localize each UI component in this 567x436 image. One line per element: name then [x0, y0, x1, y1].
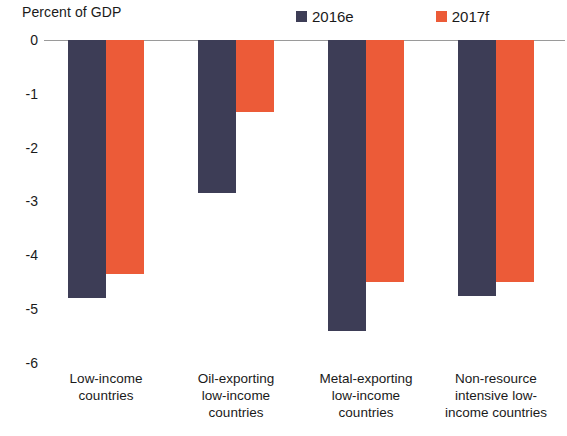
x-axis-category-label: Low-incomecountries — [38, 370, 174, 404]
x-axis-category-label-line: countries — [298, 404, 434, 421]
x-axis-category-label: Non-resourceintensive low-income countri… — [428, 370, 564, 421]
y-axis-tick-label: -2 — [0, 141, 38, 155]
x-axis-category-label-line: low-income — [168, 387, 304, 404]
bar-chart: Percent of GDP 2016e 2017f 0-1-2-3-4-5-6… — [0, 0, 567, 436]
y-axis-tick-label: -3 — [0, 194, 38, 208]
bar-2016e-group3 — [458, 40, 496, 296]
x-axis-category-label-line: countries — [38, 387, 174, 404]
y-axis-tick-label: -4 — [0, 248, 38, 262]
y-axis-tick-label: -1 — [0, 87, 38, 101]
bar-2016e-group1 — [198, 40, 236, 193]
x-axis-category-label-line: intensive low- — [428, 387, 564, 404]
plot-area: 0-1-2-3-4-5-6Low-incomecountriesOil-expo… — [0, 0, 567, 436]
x-axis-category-label-line: income countries — [428, 404, 564, 421]
y-axis-tick-label: 0 — [0, 33, 38, 47]
x-axis-category-label-line: low-income — [298, 387, 434, 404]
x-axis-category-label-line: Metal-exporting — [298, 370, 434, 387]
bar-2016e-group0 — [68, 40, 106, 298]
y-axis-tick-label: -5 — [0, 302, 38, 316]
bar-2017f-group1 — [236, 40, 274, 112]
bar-2017f-group3 — [496, 40, 534, 282]
x-axis-category-label-line: countries — [168, 404, 304, 421]
bar-2017f-group2 — [366, 40, 404, 282]
y-axis-tick-label: -6 — [0, 356, 38, 370]
x-axis-category-label: Metal-exportinglow-incomecountries — [298, 370, 434, 421]
x-axis-category-label-line: Low-income — [38, 370, 174, 387]
x-axis-category-label: Oil-exportinglow-incomecountries — [168, 370, 304, 421]
bar-2016e-group2 — [328, 40, 366, 331]
bar-2017f-group0 — [106, 40, 144, 274]
x-axis-category-label-line: Non-resource — [428, 370, 564, 387]
x-axis-category-label-line: Oil-exporting — [168, 370, 304, 387]
